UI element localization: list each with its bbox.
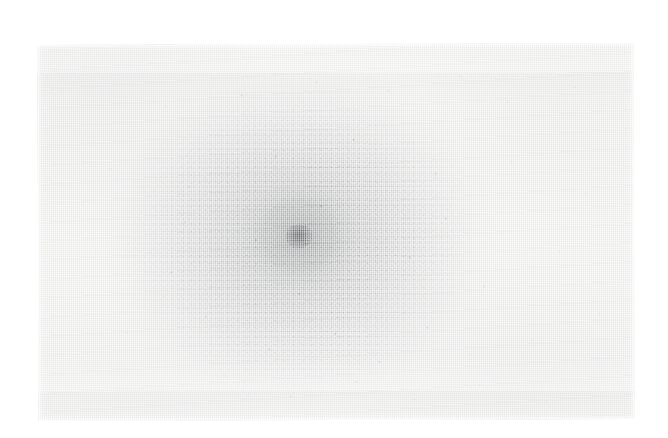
- figure-root: [0, 0, 668, 438]
- plate-edge-feather: [37, 43, 634, 421]
- scanned-photograph-plate: [37, 43, 634, 421]
